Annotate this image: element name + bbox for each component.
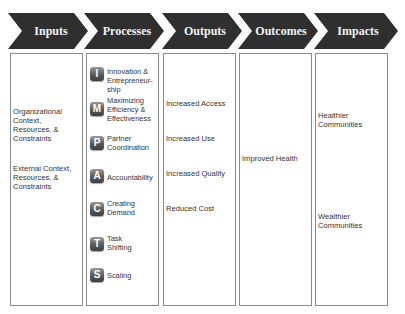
process-label: Task Shifting xyxy=(107,234,141,252)
outcomes-column: Improved Health xyxy=(239,53,312,306)
letter-badge-p-icon: P xyxy=(90,136,104,150)
output-item: Reduced Cost xyxy=(166,204,236,213)
letter-badge-s-icon: S xyxy=(90,268,104,282)
stage-label: Processes xyxy=(84,13,164,49)
stage-label: Outputs xyxy=(162,13,242,49)
process-item: C Creating Demand xyxy=(90,199,147,217)
outcome-item: Improved Health xyxy=(242,154,312,163)
outputs-column: Increased Access Increased Use Increased… xyxy=(163,53,236,306)
stage-chevron-processes: Processes xyxy=(84,13,164,49)
process-label: Scaling xyxy=(107,271,147,280)
input-item: External Context, Resources, & Constrain… xyxy=(13,164,81,191)
output-item: Increased Quality xyxy=(166,169,236,178)
stage-label: Impacts xyxy=(314,13,398,49)
stage-chevron-inputs: Inputs xyxy=(8,13,88,49)
stage-label: Outcomes xyxy=(238,13,318,49)
impact-item: Healthier Communities xyxy=(318,111,368,129)
stage-chevron-outcomes: Outcomes xyxy=(238,13,318,49)
stage-chevron-outputs: Outputs xyxy=(162,13,242,49)
process-item: I Innovation & Entrepreneur-ship xyxy=(90,67,157,94)
process-label: Innovation & Entrepreneur-ship xyxy=(107,67,157,94)
letter-badge-t-icon: T xyxy=(90,237,104,251)
process-label: Partner Coordination xyxy=(107,134,157,152)
letter-badge-m-icon: M xyxy=(90,102,104,116)
impacts-column: Healthier Communities Wealthier Communit… xyxy=(315,53,388,306)
process-label: Maximizing Efficiency & Effectiveness xyxy=(107,96,159,123)
input-item: Organizational Context, Resources, & Con… xyxy=(13,107,81,143)
letter-badge-i-icon: I xyxy=(90,67,104,81)
letter-badge-a-icon: A xyxy=(90,169,104,183)
impact-item: Wealthier Communities xyxy=(318,212,368,230)
stage-chevron-impacts: Impacts xyxy=(314,13,398,49)
letter-badge-c-icon: C xyxy=(90,202,104,216)
process-item: M Maximizing Efficiency & Effectiveness xyxy=(90,96,159,123)
process-label: Accountability xyxy=(107,173,161,182)
output-item: Increased Use xyxy=(166,134,236,143)
process-label: Creating Demand xyxy=(107,199,147,217)
inputs-column: Organizational Context, Resources, & Con… xyxy=(10,53,83,306)
output-item: Increased Access xyxy=(166,99,236,108)
process-item: S Scaling xyxy=(90,268,147,282)
process-item: P Partner Coordination xyxy=(90,134,157,152)
processes-column: I Innovation & Entrepreneur-ship M Maxim… xyxy=(86,53,159,306)
process-item: A Accountability xyxy=(90,169,161,183)
process-item: T Task Shifting xyxy=(90,234,141,252)
stage-label: Inputs xyxy=(8,13,88,49)
